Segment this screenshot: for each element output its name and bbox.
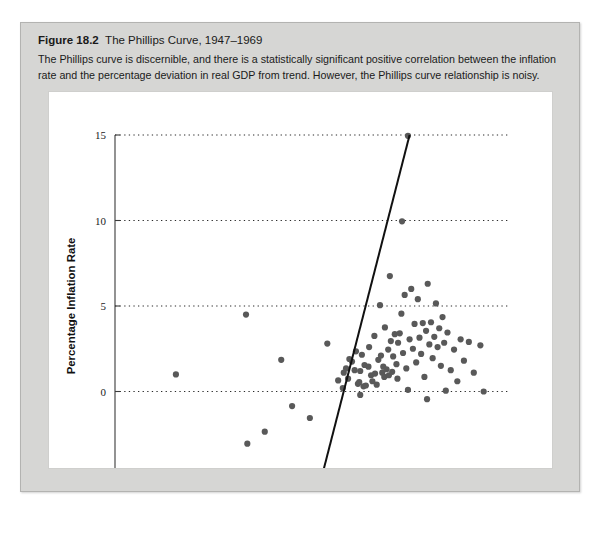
regression-line xyxy=(322,135,410,468)
data-point xyxy=(438,363,444,369)
data-point xyxy=(377,302,383,308)
data-point xyxy=(262,429,268,435)
data-point xyxy=(413,359,419,365)
scatter-plot: –8–6–4–2024–5051015 Percentage Deviation… xyxy=(49,92,552,468)
data-point xyxy=(466,339,472,345)
data-point xyxy=(363,382,369,388)
data-point xyxy=(390,353,396,359)
data-point xyxy=(357,368,363,374)
figure-description: The Phillips curve is discernible, and t… xyxy=(38,52,566,83)
tick-labels: –8–6–4–2024–5051015 xyxy=(94,129,513,468)
data-point xyxy=(423,328,429,334)
data-point xyxy=(428,319,434,325)
data-point xyxy=(335,377,341,383)
data-point xyxy=(477,342,483,348)
trendline xyxy=(322,135,410,468)
gridlines xyxy=(115,135,510,392)
data-point xyxy=(436,325,442,331)
data-point xyxy=(289,403,295,409)
data-point xyxy=(471,370,477,376)
plot-panel: –8–6–4–2024–5051015 Percentage Deviation… xyxy=(48,91,553,469)
data-point xyxy=(430,355,436,361)
data-point xyxy=(374,382,380,388)
figure-title: The Phillips Curve, 1947–1969 xyxy=(105,34,262,46)
data-point xyxy=(426,341,432,347)
data-point xyxy=(458,336,464,342)
data-point xyxy=(443,388,449,394)
data-point xyxy=(372,370,378,376)
svg-text:15: 15 xyxy=(95,129,107,141)
data-point xyxy=(461,358,467,364)
data-point xyxy=(365,364,371,370)
data-point xyxy=(434,344,440,350)
data-point xyxy=(244,441,250,447)
data-point xyxy=(403,365,409,371)
data-point xyxy=(173,371,179,377)
data-point xyxy=(278,357,284,363)
data-point xyxy=(395,340,401,346)
data-point xyxy=(444,329,450,335)
data-point xyxy=(366,344,372,350)
data-point xyxy=(398,311,404,317)
data-point xyxy=(407,336,413,342)
data-point xyxy=(421,374,427,380)
data-point xyxy=(352,367,358,373)
data-point xyxy=(399,218,405,224)
data-point xyxy=(402,292,408,298)
data-point xyxy=(410,346,416,352)
axis-titles: Percentage Deviation from Trend in GDPPe… xyxy=(65,238,423,468)
data-point xyxy=(441,340,447,346)
data-point xyxy=(481,388,487,394)
data-point xyxy=(388,338,394,344)
data-point xyxy=(307,415,313,421)
data-point xyxy=(418,351,424,357)
y-axis-title: Percentage Inflation Rate xyxy=(65,238,77,375)
data-point xyxy=(405,387,411,393)
data-point xyxy=(425,281,431,287)
data-point xyxy=(439,314,445,320)
figure-label: Figure 18.2 xyxy=(38,34,99,46)
data-point xyxy=(371,333,377,339)
data-point xyxy=(411,321,417,327)
data-point xyxy=(389,369,395,375)
data-point xyxy=(324,341,330,347)
data-point xyxy=(357,392,363,398)
data-point xyxy=(387,273,393,279)
data-point xyxy=(243,311,249,317)
data-point xyxy=(424,396,430,402)
svg-text:5: 5 xyxy=(101,300,107,312)
data-point xyxy=(400,350,406,356)
data-point xyxy=(420,320,426,326)
data-point xyxy=(383,366,389,372)
data-point xyxy=(378,352,384,358)
data-point xyxy=(448,367,454,373)
data-point xyxy=(433,300,439,306)
data-point xyxy=(454,378,460,384)
svg-text:0: 0 xyxy=(101,386,107,398)
data-point xyxy=(393,361,399,367)
data-point xyxy=(415,296,421,302)
data-point xyxy=(382,324,388,330)
data-point xyxy=(451,347,457,353)
data-point xyxy=(431,334,437,340)
data-point xyxy=(397,330,403,336)
data-point xyxy=(408,286,414,292)
data-point xyxy=(359,352,365,358)
figure-card: Figure 18.2 The Phillips Curve, 1947–196… xyxy=(20,22,580,492)
svg-text:10: 10 xyxy=(95,215,107,227)
figure-caption-block: Figure 18.2 The Phillips Curve, 1947–196… xyxy=(38,33,566,83)
data-point xyxy=(394,376,400,382)
data-point xyxy=(385,347,391,353)
data-point xyxy=(416,335,422,341)
figure-title-line: Figure 18.2 The Phillips Curve, 1947–196… xyxy=(38,33,566,48)
data-points xyxy=(173,133,487,468)
